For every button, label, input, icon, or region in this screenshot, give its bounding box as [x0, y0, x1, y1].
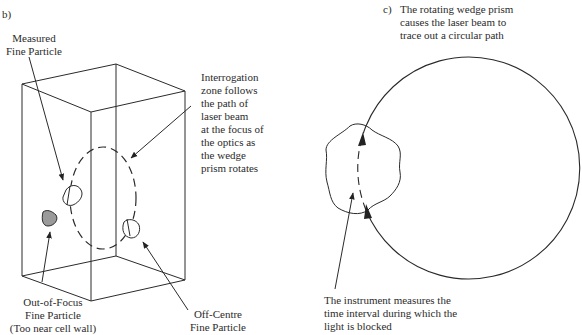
panel-b-tag: b)	[2, 8, 11, 21]
cuvette-box	[22, 64, 185, 301]
label-line: light is blocked	[324, 320, 457, 333]
panel-c-caption: The instrument measures the time interva…	[324, 294, 457, 333]
label-line: the path of	[201, 97, 264, 110]
interrogation-zone-label: Interrogation zone follows the path of l…	[201, 71, 264, 175]
label-line: causes the laser beam to	[400, 16, 513, 29]
label-line: at the focus of	[201, 123, 264, 136]
label-line: Off-Centre	[190, 308, 246, 321]
measured-particle-label: Measured Fine Particle	[6, 32, 62, 58]
panel-c-title: The rotating wedge prism causes the lase…	[400, 3, 513, 42]
path-direction-arrow-top	[358, 132, 366, 146]
measured-particle-icon	[63, 186, 82, 206]
label-line: Interrogation	[201, 71, 264, 84]
out-of-focus-label: Out-of-Focus Fine Particle (Too near cel…	[2, 296, 104, 335]
panel-c-tag: c)	[383, 3, 392, 16]
label-line: (Too near cell wall)	[2, 322, 104, 335]
out-of-focus-particle-icon	[42, 211, 57, 226]
label-line: trace out a circular path	[400, 29, 513, 42]
diagram-canvas	[0, 0, 582, 335]
label-line: The instrument measures the	[324, 294, 457, 307]
label-line: Fine Particle	[6, 45, 62, 58]
off-centre-pointer-arrow	[143, 242, 188, 310]
label-line: the wedge	[201, 149, 264, 162]
off-centre-particle-icon	[123, 219, 140, 238]
label-line: prism rotates	[201, 162, 264, 175]
label-line: Out-of-Focus	[2, 296, 104, 309]
out-of-focus-pointer-arrow	[42, 232, 50, 282]
label-line: zone follows	[201, 84, 264, 97]
label-line: Fine Particle	[190, 321, 246, 334]
label-line: Measured	[6, 32, 62, 45]
interrogation-pointer-arrow	[131, 106, 191, 158]
label-line: Fine Particle	[2, 309, 104, 322]
measured-pointer-arrow	[29, 57, 63, 180]
label-line: the optics as	[201, 136, 264, 149]
off-centre-label: Off-Centre Fine Particle	[190, 308, 246, 334]
label-line: laser beam	[201, 110, 264, 123]
label-line: time interval during which the	[324, 307, 457, 320]
label-line: The rotating wedge prism	[400, 3, 513, 16]
laser-circular-path	[366, 57, 580, 279]
path-direction-arrow-bottom	[364, 204, 372, 219]
